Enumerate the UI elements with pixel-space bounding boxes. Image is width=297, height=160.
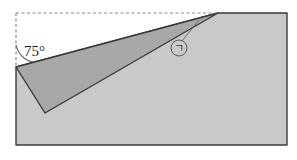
figure-canvas: 75° ㄱ — [0, 0, 297, 160]
geometry-figure: 75° ㄱ — [0, 0, 297, 160]
marker-label: ㄱ — [174, 42, 184, 55]
angle-label-75: 75° — [24, 43, 45, 59]
